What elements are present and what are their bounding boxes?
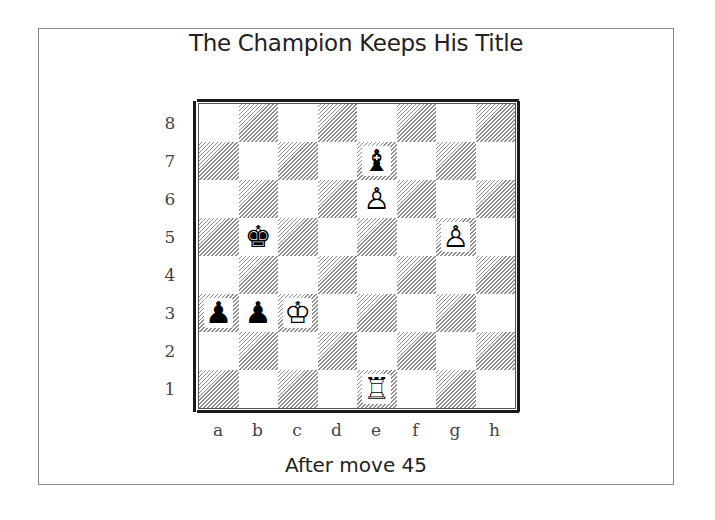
square-f1[interactable] <box>397 370 437 408</box>
square-c2[interactable] <box>278 332 318 370</box>
square-d2[interactable] <box>318 332 358 370</box>
square-a1[interactable] <box>199 370 239 408</box>
square-h4[interactable] <box>476 256 516 294</box>
square-e3[interactable] <box>357 294 397 332</box>
square-c8[interactable] <box>278 104 318 142</box>
square-d1[interactable] <box>318 370 358 408</box>
square-g3[interactable] <box>436 294 476 332</box>
square-g2[interactable] <box>436 332 476 370</box>
square-c1[interactable] <box>278 370 318 408</box>
square-e1[interactable]: ♖ <box>357 370 397 408</box>
rank-label-4: 4 <box>162 265 178 285</box>
board-border-left <box>193 101 196 412</box>
square-b7[interactable] <box>239 142 279 180</box>
rank-label-1: 1 <box>162 379 178 399</box>
square-h1[interactable] <box>476 370 516 408</box>
rank-label-3: 3 <box>162 303 178 323</box>
square-e7[interactable]: ♝ <box>357 142 397 180</box>
square-c3[interactable]: ♔ <box>278 294 318 332</box>
board-border-top <box>197 99 519 102</box>
square-f4[interactable] <box>397 256 437 294</box>
file-label-f: f <box>406 420 426 440</box>
square-g6[interactable] <box>436 180 476 218</box>
square-a7[interactable] <box>199 142 239 180</box>
file-label-d: d <box>327 420 347 440</box>
rank-label-8: 8 <box>162 113 178 133</box>
white-pawn-icon[interactable]: ♙ <box>441 222 470 252</box>
white-rook-icon[interactable]: ♖ <box>362 374 391 404</box>
square-a2[interactable] <box>199 332 239 370</box>
square-g4[interactable] <box>436 256 476 294</box>
black-pawn-icon[interactable]: ♟ <box>204 298 233 328</box>
square-h5[interactable] <box>476 218 516 256</box>
square-c5[interactable] <box>278 218 318 256</box>
file-label-c: c <box>287 420 307 440</box>
square-c6[interactable] <box>278 180 318 218</box>
board-border-bottom <box>197 410 519 413</box>
square-h7[interactable] <box>476 142 516 180</box>
square-g7[interactable] <box>436 142 476 180</box>
square-h6[interactable] <box>476 180 516 218</box>
square-b8[interactable] <box>239 104 279 142</box>
white-king-icon[interactable]: ♔ <box>283 298 312 328</box>
square-e5[interactable] <box>357 218 397 256</box>
square-b2[interactable] <box>239 332 279 370</box>
square-d6[interactable] <box>318 180 358 218</box>
file-label-g: g <box>445 420 465 440</box>
rank-label-6: 6 <box>162 189 178 209</box>
chess-board: ♝♙♚♙♟♟♔♖ <box>198 103 516 409</box>
square-d7[interactable] <box>318 142 358 180</box>
square-d3[interactable] <box>318 294 358 332</box>
square-e6[interactable]: ♙ <box>357 180 397 218</box>
square-b4[interactable] <box>239 256 279 294</box>
black-king-icon[interactable]: ♚ <box>244 222 273 252</box>
black-pawn-icon[interactable]: ♟ <box>244 298 273 328</box>
square-a4[interactable] <box>199 256 239 294</box>
square-f3[interactable] <box>397 294 437 332</box>
diagram-caption: After move 45 <box>38 453 674 477</box>
square-f5[interactable] <box>397 218 437 256</box>
square-g8[interactable] <box>436 104 476 142</box>
square-b6[interactable] <box>239 180 279 218</box>
square-e2[interactable] <box>357 332 397 370</box>
black-bishop-icon[interactable]: ♝ <box>362 146 391 176</box>
square-b3[interactable]: ♟ <box>239 294 279 332</box>
rank-label-5: 5 <box>162 227 178 247</box>
square-f2[interactable] <box>397 332 437 370</box>
square-b1[interactable] <box>239 370 279 408</box>
square-d5[interactable] <box>318 218 358 256</box>
square-e4[interactable] <box>357 256 397 294</box>
square-h8[interactable] <box>476 104 516 142</box>
square-d8[interactable] <box>318 104 358 142</box>
square-h2[interactable] <box>476 332 516 370</box>
file-label-b: b <box>248 420 268 440</box>
square-a8[interactable] <box>199 104 239 142</box>
square-g5[interactable]: ♙ <box>436 218 476 256</box>
square-f6[interactable] <box>397 180 437 218</box>
square-c7[interactable] <box>278 142 318 180</box>
file-label-h: h <box>485 420 505 440</box>
square-b5[interactable]: ♚ <box>239 218 279 256</box>
square-c4[interactable] <box>278 256 318 294</box>
square-a5[interactable] <box>199 218 239 256</box>
square-a3[interactable]: ♟ <box>199 294 239 332</box>
board-border-right <box>517 101 520 412</box>
rank-label-7: 7 <box>162 151 178 171</box>
square-f8[interactable] <box>397 104 437 142</box>
square-a6[interactable] <box>199 180 239 218</box>
diagram-title: The Champion Keeps His Title <box>38 30 674 56</box>
square-e8[interactable] <box>357 104 397 142</box>
square-g1[interactable] <box>436 370 476 408</box>
file-label-a: a <box>208 420 228 440</box>
square-f7[interactable] <box>397 142 437 180</box>
white-pawn-icon[interactable]: ♙ <box>362 184 391 214</box>
rank-label-2: 2 <box>162 341 178 361</box>
square-h3[interactable] <box>476 294 516 332</box>
square-d4[interactable] <box>318 256 358 294</box>
file-label-e: e <box>366 420 386 440</box>
